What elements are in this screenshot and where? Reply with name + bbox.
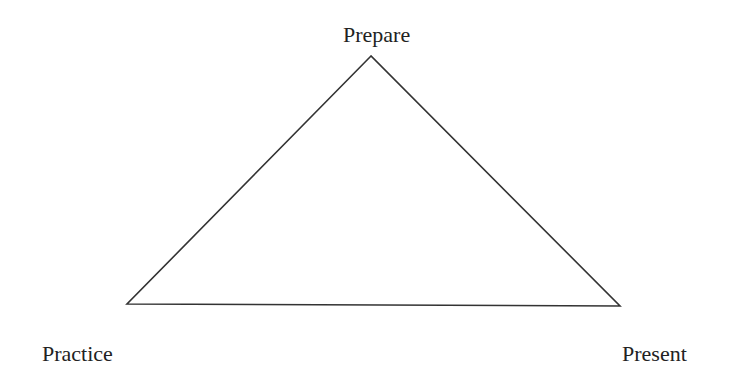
triangle-shape [127, 56, 620, 306]
vertex-label-practice: Practice [42, 343, 113, 365]
vertex-label-present: Present [622, 343, 687, 365]
vertex-label-prepare: Prepare [343, 24, 410, 46]
triangle-diagram [0, 0, 735, 381]
